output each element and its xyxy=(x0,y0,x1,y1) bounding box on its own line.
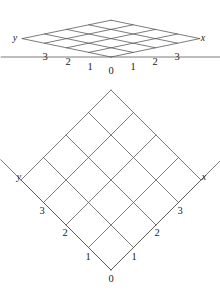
perspective-tick-3-0: 3 xyxy=(42,52,47,63)
plan-tick-3-6: 3 xyxy=(177,206,182,217)
perspective-tick-2-1: 2 xyxy=(65,57,70,68)
plan-axis-y-0: y xyxy=(17,172,21,182)
plan-lattice-drawing xyxy=(0,0,220,297)
plan-tick-1-4: 1 xyxy=(131,252,136,263)
perspective-tick-3-6: 3 xyxy=(174,52,179,63)
plan-tick-3-0: 3 xyxy=(39,206,44,217)
perspective-tick-1-2: 1 xyxy=(87,62,92,73)
plan-axis-x-1: x xyxy=(202,172,206,182)
perspective-axis-y-0: y xyxy=(13,33,17,43)
perspective-tick-0-3: 0 xyxy=(108,66,113,77)
perspective-axis-x-1: x xyxy=(201,33,205,43)
plan-tick-2-5: 2 xyxy=(154,228,159,239)
figure-root: 3210123yx 3210123yx xyxy=(0,0,220,297)
plan-tick-2-1: 2 xyxy=(62,228,67,239)
perspective-tick-1-4: 1 xyxy=(130,62,135,73)
plan-tick-1-2: 1 xyxy=(85,252,90,263)
perspective-tick-2-5: 2 xyxy=(152,57,157,68)
plan-tick-0-3: 0 xyxy=(108,274,113,285)
